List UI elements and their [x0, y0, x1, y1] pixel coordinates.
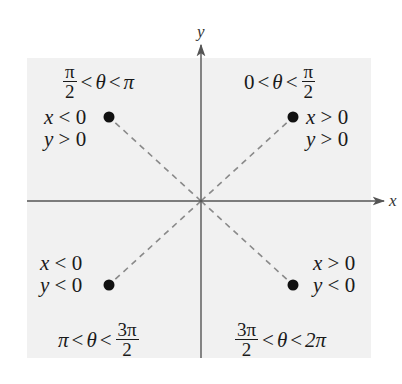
q1-conditions: x > 0 y > 0	[306, 106, 348, 150]
q2-condition-x: x < 0	[44, 106, 86, 128]
q3-conditions: x < 0 y < 0	[40, 252, 82, 296]
q2-angle-range: π 2 < θ < π	[62, 62, 134, 102]
radial-line-q4	[201, 201, 293, 285]
radial-line-q3	[109, 201, 201, 285]
point-q2	[104, 112, 115, 123]
q3-angle-range: π < θ < 3π 2	[58, 320, 140, 360]
x-axis-label: x	[389, 192, 397, 209]
q2-condition-y: y > 0	[44, 128, 86, 150]
q4-conditions: x > 0 y < 0	[313, 252, 355, 296]
point-q4	[288, 280, 299, 291]
q4-lower-fraction: 3π 2	[235, 320, 258, 360]
q4-condition-y: y < 0	[313, 274, 355, 296]
q1-condition-y: y > 0	[306, 128, 348, 150]
q1-angle-range: 0 < θ < π 2	[244, 62, 316, 102]
q4-condition-x: x > 0	[313, 252, 355, 274]
q3-condition-x: x < 0	[40, 252, 82, 274]
q2-conditions: x < 0 y > 0	[44, 106, 86, 150]
q2-lower-fraction: π 2	[63, 62, 77, 102]
point-q1	[288, 112, 299, 123]
radial-line-q2	[109, 117, 201, 201]
q3-upper-fraction: 3π 2	[116, 320, 139, 360]
radial-line-q1	[201, 117, 293, 201]
point-q3	[104, 280, 115, 291]
quadrant-angle-diagram: y x π 2 < θ < π 0 < θ < π 2 x < 0 y > 0 …	[0, 0, 402, 384]
q3-condition-y: y < 0	[40, 274, 82, 296]
q1-condition-x: x > 0	[306, 106, 348, 128]
q4-angle-range: 3π 2 < θ < 2π	[234, 320, 326, 360]
q1-upper-fraction: π 2	[302, 62, 316, 102]
y-axis-label: y	[197, 23, 205, 40]
